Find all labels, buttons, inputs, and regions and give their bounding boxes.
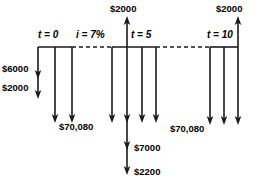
- value-label-right-70080: $70,080: [170, 124, 204, 134]
- cash-flow-diagram: t = 0 i = 7% t = 5 t = 10 $6000 $2000 $7…: [0, 0, 259, 184]
- value-label-mid-2200: $2200: [134, 167, 160, 177]
- value-label-right-inflow-2000: $2000: [216, 4, 242, 14]
- value-label-mid-inflow-2000: $2000: [110, 4, 136, 14]
- cash-flow-svg-canvas: [0, 0, 259, 184]
- interest-rate-label: i = 7%: [76, 30, 105, 40]
- value-label-mid-7000: $7000: [134, 143, 160, 153]
- value-label-left-6000: $6000: [2, 64, 28, 74]
- value-label-left-70080: $70,080: [59, 122, 93, 132]
- time-mark-t5: t = 5: [131, 30, 151, 40]
- time-mark-t10: t = 10: [207, 30, 233, 40]
- value-label-left-2000: $2000: [2, 83, 28, 93]
- time-mark-t0: t = 0: [38, 30, 58, 40]
